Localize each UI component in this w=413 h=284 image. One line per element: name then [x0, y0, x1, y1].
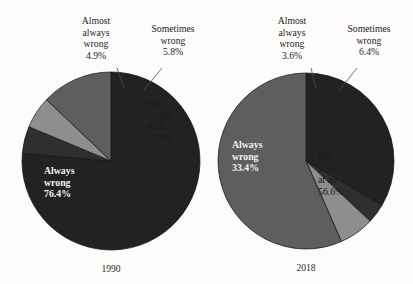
slice-label-2018-always-wrong: Alwayswrong33.4% — [232, 139, 263, 173]
slice-label-2018-sometimes-wrong: Sometimeswrong6.4% — [347, 23, 390, 57]
pie-charts-figure: Alwayswrong76.4%Almostalwayswrong4.9%Som… — [0, 0, 413, 284]
pie-chart-1990: Alwayswrong76.4%Almostalwayswrong4.9%Som… — [22, 15, 200, 274]
slice-label-1990-always-wrong: Alwayswrong76.4% — [44, 165, 75, 199]
year-label-2018: 2018 — [296, 262, 315, 273]
slice-label-1990-sometimes-wrong: Sometimeswrong5.8% — [151, 23, 194, 57]
figure-root: Alwayswrong76.4%Almostalwayswrong4.9%Som… — [0, 0, 413, 284]
pie-chart-2018: Alwayswrong33.4%Almostalwayswrong3.6%Som… — [218, 15, 394, 273]
slice-label-2018-almost-always-wrong: Almostalwayswrong3.6% — [278, 15, 307, 61]
year-label-1990: 1990 — [101, 263, 120, 274]
slice-label-1990-almost-always-wrong: Almostalwayswrong4.9% — [82, 15, 111, 61]
